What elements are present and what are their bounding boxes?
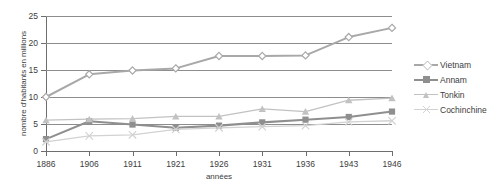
data-point-marker: [42, 93, 49, 100]
x-tick: [46, 151, 47, 156]
data-point-marker: [172, 65, 179, 72]
data-point-marker: [259, 52, 266, 59]
series-vietnam: [42, 24, 395, 100]
legend-label: Annam: [438, 75, 467, 85]
y-tick-label: 25: [29, 11, 38, 21]
y-tick-label: 15: [29, 65, 38, 75]
series-line: [46, 28, 392, 97]
data-point-marker: [302, 117, 308, 123]
x-tick: [306, 151, 307, 156]
y-tick-label: 10: [29, 92, 38, 102]
x-tick-label: 1943: [339, 159, 358, 169]
y-tick-label: 0: [33, 146, 38, 156]
line-chart-figure: nombre d'habitants en millions 051015202…: [0, 0, 503, 195]
x-tick-label: 1926: [210, 159, 229, 169]
legend-item-tonkin[interactable]: Tonkin: [414, 87, 503, 102]
legend-marker-icon: [414, 59, 438, 71]
y-tick-label: 5: [33, 119, 38, 129]
legend-label: Tonkin: [438, 90, 465, 100]
y-axis-title: nombre d'habitants en millions: [19, 14, 28, 154]
x-tick: [176, 151, 177, 156]
x-tick-label: 1911: [123, 159, 141, 169]
data-point-marker: [215, 52, 222, 59]
legend-label: Cochinchine: [438, 105, 487, 115]
data-point-marker: [129, 67, 136, 74]
x-tick: [392, 151, 393, 156]
legend-label: Vietnam: [438, 60, 471, 70]
x-tick: [262, 151, 263, 156]
legend-marker-icon: [414, 74, 438, 86]
data-point-marker: [86, 71, 93, 78]
x-tick-label: 1906: [80, 159, 99, 169]
legend-item-cochinchine[interactable]: Cochinchine: [414, 102, 503, 117]
x-tick-label: 1946: [383, 159, 402, 169]
x-tick-label: 1886: [37, 159, 56, 169]
data-point-marker: [129, 121, 135, 127]
x-tick: [349, 151, 350, 156]
data-point-marker: [302, 52, 309, 59]
legend-marker-icon: [414, 104, 438, 116]
legend-item-annam[interactable]: Annam: [414, 72, 503, 87]
x-tick-label: 1931: [253, 159, 272, 169]
series-layer: [46, 16, 392, 151]
x-tick-label: 1921: [166, 159, 185, 169]
legend-marker-icon: [414, 89, 438, 101]
chart-legend: VietnamAnnamTonkinCochinchine: [414, 57, 503, 117]
x-tick: [89, 151, 90, 156]
x-tick: [219, 151, 220, 156]
data-point-marker: [388, 24, 395, 31]
series-tonkin: [42, 95, 395, 124]
x-axis-title: années: [46, 172, 392, 181]
x-tick-label: 1936: [296, 159, 315, 169]
data-point-marker: [389, 108, 395, 114]
y-tick-label: 20: [29, 38, 38, 48]
data-point-marker: [345, 33, 352, 40]
legend-item-vietnam[interactable]: Vietnam: [414, 57, 503, 72]
x-tick: [133, 151, 134, 156]
